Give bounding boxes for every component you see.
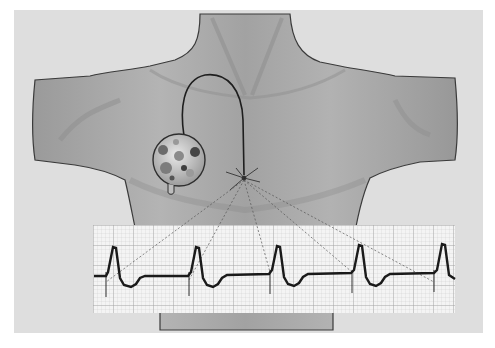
ecg-strip <box>93 225 455 313</box>
pacemaker-illustration <box>0 0 495 348</box>
